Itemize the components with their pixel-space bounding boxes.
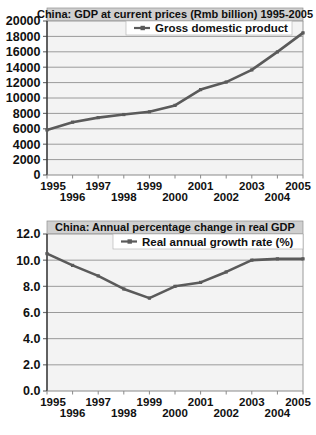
legend-marker-dot-icon [141,26,145,30]
x-axis-label: 2003 [239,180,265,192]
y-axis-label: 2000 [13,153,41,167]
series-point [148,110,151,113]
gdp-chart-canvas: China: GDP at current prices (Rmb billio… [0,0,316,216]
y-axis-label: 6000 [13,122,41,136]
x-axis-label: 1997 [85,396,111,408]
y-axis-label: 4.0 [23,332,40,346]
y-axis-label: 10000 [6,91,41,105]
series-point [225,270,228,273]
charts-page: China: GDP at current prices (Rmb billio… [0,0,316,435]
series-point [71,121,74,124]
x-axis-label: 2000 [162,191,188,203]
series-point [71,264,74,267]
x-axis-label: 1999 [137,396,163,408]
growth-chart-canvas: China: Annual percentage change in real … [0,216,316,435]
x-axis-label: 1999 [137,180,163,192]
growth-chart-svg: China: Annual percentage change in real … [0,216,316,435]
series-point [97,116,100,119]
y-axis-label: 12.0 [16,227,40,241]
series-point [250,259,253,262]
x-axis-label: 1997 [85,180,111,192]
x-axis-label: 2002 [213,407,239,419]
x-axis-label: 2005 [285,396,311,408]
chart-title: China: GDP at current prices (Rmb billio… [37,8,313,20]
gdp-chart: China: GDP at current prices (Rmb billio… [0,0,316,216]
y-axis-label: 18000 [6,30,41,44]
series-point [225,80,228,83]
x-axis-label: 2001 [188,396,214,408]
growth-chart: China: Annual percentage change in real … [0,216,316,435]
series-point [301,31,304,34]
series-point [45,252,48,255]
series-point [45,128,48,131]
series-point [173,104,176,107]
y-axis-label: 10.0 [16,254,40,268]
x-axis-label: 1998 [111,407,137,419]
series-point [173,285,176,288]
x-axis-label: 2002 [213,191,239,203]
y-axis-label: 6.0 [23,306,40,320]
y-axis-label: 8000 [13,107,41,121]
x-axis-label: 2003 [239,396,265,408]
y-axis-label: 14000 [6,61,41,75]
x-axis-label: 1996 [60,407,86,419]
y-axis-label: 4000 [13,138,41,152]
series-point [97,274,100,277]
y-axis-label: 8.0 [23,280,40,294]
bottom-artifact-text [30,427,31,433]
legend-label: Real annual growth rate (%) [142,236,294,248]
legend-label: Gross domestic product [155,22,288,34]
series-point [301,257,304,260]
chart-title: China: Annual percentage change in real … [55,221,295,233]
y-axis-label: 12000 [6,76,41,90]
x-axis-label: 2000 [162,407,188,419]
series-point [250,68,253,71]
x-axis-label: 1996 [60,191,86,203]
series-point [199,88,202,91]
x-axis-label: 2004 [265,407,291,419]
series-point [276,50,279,53]
y-axis-label: 16000 [6,45,41,59]
y-axis-label: 20000 [6,14,41,28]
x-axis-label: 2001 [188,180,214,192]
y-axis-label: 0.0 [23,384,40,398]
series-point [122,113,125,116]
legend-marker-dot-icon [128,239,132,243]
y-axis-label: 2.0 [23,358,40,372]
series-point [148,297,151,300]
series-point [276,257,279,260]
x-axis-label: 2005 [285,180,311,192]
x-axis-label: 1998 [111,191,137,203]
series-point [199,281,202,284]
gdp-chart-svg: China: GDP at current prices (Rmb billio… [0,0,316,216]
x-axis-label: 2004 [265,191,291,203]
series-point [122,287,125,290]
